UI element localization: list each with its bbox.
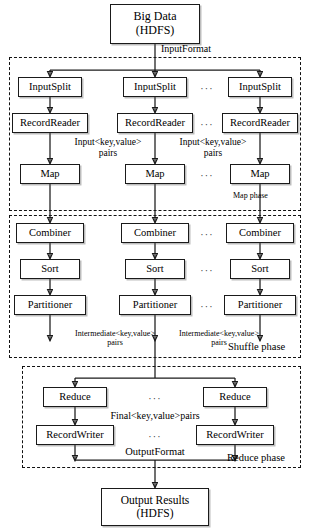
- edge-label-final-kv: Final<key,value>pairs: [110, 410, 199, 421]
- node-recordreader-1[interactable]: RecordReader: [12, 113, 88, 133]
- edge-label-input-kv-1: Input<key,value> pairs: [75, 137, 142, 158]
- ellipsis-inputsplit: ···: [200, 84, 214, 94]
- ellipsis-recordwriter: ···: [148, 432, 162, 442]
- edge-label-output-format: OutputFormat: [125, 446, 185, 458]
- node-inputsplit-1[interactable]: InputSplit: [18, 77, 82, 97]
- big-data-label-line1: Big Data: [134, 10, 177, 24]
- phase-label-reduce: Reduce phase: [227, 452, 285, 464]
- input-kv-1-line1: Input<key,value>: [75, 137, 142, 148]
- node-reduce-1[interactable]: Reduce: [43, 387, 107, 407]
- node-big-data-source[interactable]: Big Data (HDFS): [110, 4, 200, 44]
- input-kv-2-line2: pairs: [180, 148, 247, 159]
- node-recordwriter-1[interactable]: RecordWriter: [36, 425, 114, 445]
- node-combiner-1[interactable]: Combiner: [16, 223, 84, 243]
- node-inputsplit-3[interactable]: InputSplit: [228, 77, 292, 97]
- ellipsis-combiner: ···: [200, 230, 214, 240]
- node-sort-2[interactable]: Sort: [125, 259, 185, 279]
- ellipsis-recordreader: ···: [200, 120, 214, 130]
- edge-label-input-kv-2: Input<key,value> pairs: [180, 137, 247, 158]
- node-partitioner-1[interactable]: Partitioner: [14, 295, 86, 315]
- node-map-1[interactable]: Map: [20, 164, 80, 184]
- node-partitioner-2[interactable]: Partitioner: [119, 295, 191, 315]
- phase-label-map: Map phase: [233, 192, 268, 201]
- ellipsis-partitioner: ···: [200, 302, 214, 312]
- input-kv-2-line1: Input<key,value>: [180, 137, 247, 148]
- node-output-results-sink[interactable]: Output Results (HDFS): [101, 488, 209, 526]
- node-recordreader-2[interactable]: RecordReader: [117, 113, 193, 133]
- node-recordreader-3[interactable]: RecordReader: [222, 113, 298, 133]
- input-kv-1-line2: pairs: [75, 148, 142, 159]
- node-map-3[interactable]: Map: [230, 164, 290, 184]
- node-combiner-3[interactable]: Combiner: [226, 223, 294, 243]
- node-partitioner-3[interactable]: Partitioner: [224, 295, 296, 315]
- node-inputsplit-2[interactable]: InputSplit: [123, 77, 187, 97]
- node-combiner-2[interactable]: Combiner: [121, 223, 189, 243]
- ellipsis-reduce: ···: [148, 394, 162, 404]
- ellipsis-sort: ···: [200, 266, 214, 276]
- phase-label-shuffle: Shuffle phase: [228, 341, 285, 353]
- edge-label-input-format: InputFormat: [161, 43, 211, 54]
- node-reduce-2[interactable]: Reduce: [203, 387, 267, 407]
- node-sort-3[interactable]: Sort: [230, 259, 290, 279]
- mapreduce-flow-diagram: Big Data (HDFS) InputSplit InputSplit In…: [0, 0, 309, 532]
- big-data-label-line2: (HDFS): [136, 24, 175, 38]
- intermediate-kv-1-line2: pairs: [75, 339, 155, 348]
- ellipsis-map: ···: [200, 171, 214, 181]
- node-sort-1[interactable]: Sort: [20, 259, 80, 279]
- edge-label-intermediate-kv-1: Intermediate<key,value> pairs: [75, 330, 155, 348]
- node-map-2[interactable]: Map: [125, 164, 185, 184]
- output-results-label-line2: (HDFS): [136, 507, 173, 520]
- output-results-label-line1: Output Results: [121, 494, 190, 507]
- node-recordwriter-2[interactable]: RecordWriter: [196, 425, 274, 445]
